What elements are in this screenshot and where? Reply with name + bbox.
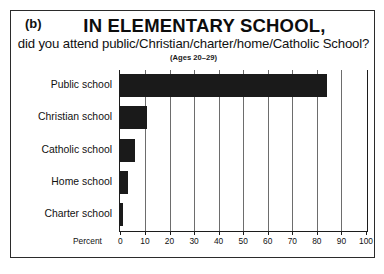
x-axis-tick bbox=[366, 231, 367, 235]
x-axis-tick-label: 50 bbox=[230, 236, 256, 246]
category-label: Public school bbox=[12, 79, 112, 90]
figure-panel: (b) IN ELEMENTARY SCHOOL, did you attend… bbox=[0, 0, 384, 274]
category-label: Home school bbox=[12, 176, 112, 187]
x-axis-tick bbox=[170, 231, 171, 235]
category-axis-labels: Public schoolChristian schoolCatholic sc… bbox=[11, 70, 112, 232]
bar bbox=[120, 139, 135, 162]
category-label: Catholic school bbox=[12, 144, 112, 155]
x-axis-tick-label: 90 bbox=[328, 236, 354, 246]
bar bbox=[120, 171, 127, 194]
x-axis-tick bbox=[145, 231, 146, 235]
x-axis-tick-label: 10 bbox=[132, 236, 158, 246]
gridline bbox=[341, 70, 342, 231]
age-range-note: (Ages 20–29) bbox=[11, 53, 376, 62]
x-axis-tick bbox=[194, 231, 195, 235]
x-axis-tick bbox=[317, 231, 318, 235]
bar bbox=[120, 74, 326, 97]
x-axis-tick bbox=[268, 231, 269, 235]
axis-line-right bbox=[367, 70, 368, 232]
x-axis-tick-label: 100 bbox=[353, 236, 379, 246]
plot-area: 0102030405060708090100 bbox=[119, 70, 368, 232]
x-axis-tick-label: 40 bbox=[206, 236, 232, 246]
x-axis-tick bbox=[341, 231, 342, 235]
category-label: Christian school bbox=[12, 111, 112, 122]
chart-title: IN ELEMENTARY SCHOOL, bbox=[11, 15, 376, 37]
category-label: Charter school bbox=[12, 208, 112, 219]
x-axis-tick-label: 0 bbox=[107, 236, 133, 246]
x-axis-tick-label: 80 bbox=[304, 236, 330, 246]
x-axis-tick bbox=[219, 231, 220, 235]
x-axis-tick-label: 60 bbox=[255, 236, 281, 246]
chart-subtitle: did you attend public/Christian/charter/… bbox=[11, 36, 376, 51]
x-axis-tick-label: 70 bbox=[279, 236, 305, 246]
bar bbox=[120, 203, 122, 226]
x-axis-label: Percent bbox=[73, 236, 102, 246]
x-axis-tick bbox=[292, 231, 293, 235]
x-axis-tick bbox=[243, 231, 244, 235]
x-axis-tick bbox=[120, 231, 121, 235]
x-axis-tick-label: 20 bbox=[157, 236, 183, 246]
x-axis-tick-label: 30 bbox=[181, 236, 207, 246]
bar bbox=[120, 106, 147, 129]
figure-frame: (b) IN ELEMENTARY SCHOOL, did you attend… bbox=[10, 10, 375, 258]
